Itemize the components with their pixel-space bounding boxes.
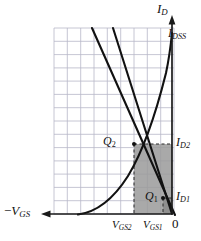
label-q2-main: Q: [103, 134, 112, 148]
label-q1: Q1: [145, 190, 158, 204]
label-id1-sub: D1: [180, 195, 190, 204]
q1-point-marker: [161, 196, 165, 200]
load-line-2: [92, 28, 175, 215]
axis-label-id: ID: [157, 2, 168, 17]
label-q1-sub: 1: [154, 195, 158, 204]
axis-label-neg-vgs: −VGS: [4, 204, 30, 219]
label-origin-zero: 0: [172, 217, 179, 230]
label-idss: IDSS: [168, 27, 186, 41]
label-vgs2-sub: GS2: [119, 223, 132, 232]
label-idss-sub: DSS: [172, 32, 186, 41]
label-id2: ID2: [176, 136, 190, 150]
label-q1-main: Q: [145, 189, 154, 203]
label-vgs2: VGS2: [112, 219, 132, 231]
label-vgs1: VGS1: [143, 219, 163, 231]
x-axis-arrowhead: [41, 211, 51, 218]
label-vgs1-sub: GS1: [150, 223, 163, 232]
label-q2: Q2: [103, 135, 116, 149]
y-axis-arrowhead: [169, 15, 176, 25]
figure-canvas: ID IDSS ID2 ID1 Q2 Q1 −VGS VGS2 VGS1 0: [0, 0, 201, 241]
label-id1: ID1: [176, 190, 190, 204]
q2-point-marker: [132, 142, 136, 146]
label-vgs2-main: V: [112, 218, 119, 230]
axis-label-neg-vgs-sub: GS: [19, 209, 30, 219]
axis-label-id-sub: D: [161, 7, 167, 17]
label-id2-sub: D2: [180, 141, 190, 150]
label-q2-sub: 2: [112, 140, 116, 149]
label-vgs1-main: V: [143, 218, 150, 230]
